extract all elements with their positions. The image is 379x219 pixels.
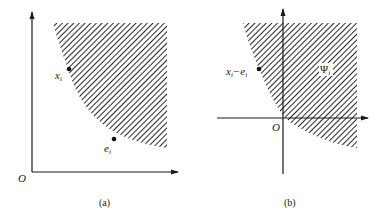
point-x-i xyxy=(67,67,72,72)
figure-canvas: xi ei O (a) xi−ei Ψi O (b) xyxy=(0,0,379,219)
hatched-region-psi xyxy=(243,23,357,148)
point-x-i-minus-e-i xyxy=(257,67,262,72)
hatched-region-a xyxy=(53,23,167,148)
label-e-i: ei xyxy=(104,142,111,156)
label-x-i-minus-e-i: xi−ei xyxy=(225,65,247,79)
panel-b: xi−ei Ψi O (b) xyxy=(217,9,368,209)
panel-a: xi ei O (a) xyxy=(18,12,178,209)
caption-b: (b) xyxy=(284,197,296,209)
label-x-i: xi xyxy=(54,69,62,83)
point-e-i xyxy=(112,137,117,142)
origin-label-a: O xyxy=(18,172,26,184)
caption-a: (a) xyxy=(99,197,110,209)
origin-label-b: O xyxy=(272,121,280,133)
